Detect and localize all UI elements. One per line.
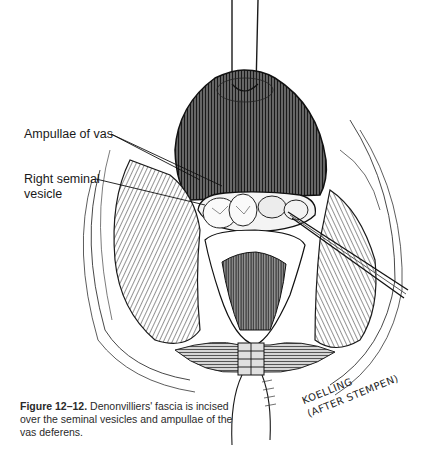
rectourethralis-band (175, 342, 335, 375)
figure-caption: Figure 12–12. Denonvilliers' fascia is i… (20, 400, 250, 439)
label-ampullae-of-vas: Ampullae of vas (24, 127, 113, 142)
figure-number: Figure 12–12. (20, 400, 87, 412)
label-right-seminal-vesicle-line1: Right seminal (24, 172, 100, 187)
label-right-seminal-vesicle-line2: vesicle (24, 187, 62, 202)
prostate (205, 230, 305, 345)
bladder (175, 70, 326, 200)
seminal-vesicles (198, 192, 315, 232)
